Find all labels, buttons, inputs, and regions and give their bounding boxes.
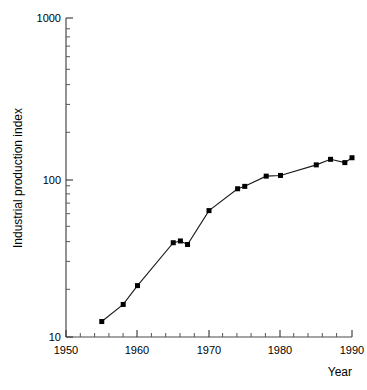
y-tick-label-10: 10 xyxy=(49,331,61,343)
line-chart-canvas: 1000 100 10 1950 1960 1970 1980 1990 Ind… xyxy=(0,0,367,390)
data-point xyxy=(242,184,247,189)
data-point xyxy=(135,283,140,288)
data-point xyxy=(278,173,283,178)
data-point xyxy=(314,162,319,167)
data-point xyxy=(178,238,183,243)
y-axis-title: Industrial production index xyxy=(11,108,25,248)
data-point xyxy=(171,240,176,245)
x-tick-label-1950: 1950 xyxy=(54,344,78,356)
data-point xyxy=(185,242,190,247)
x-tick-label-1960: 1960 xyxy=(125,344,149,356)
x-tick-label-1980: 1980 xyxy=(268,344,292,356)
data-point xyxy=(264,174,269,179)
data-point xyxy=(207,208,212,213)
data-point xyxy=(328,157,333,162)
x-tick-label-1970: 1970 xyxy=(197,344,221,356)
x-axis-title: Year xyxy=(328,365,352,379)
chart-figure: 1000 100 10 1950 1960 1970 1980 1990 Ind… xyxy=(0,0,367,390)
data-point xyxy=(121,302,126,307)
y-tick-label-100: 100 xyxy=(43,174,61,186)
data-point xyxy=(99,319,104,324)
y-tick-label-1000: 1000 xyxy=(37,12,61,24)
data-point xyxy=(235,186,240,191)
data-point xyxy=(342,160,347,165)
x-tick-label-1990: 1990 xyxy=(340,344,364,356)
data-point xyxy=(350,155,355,160)
